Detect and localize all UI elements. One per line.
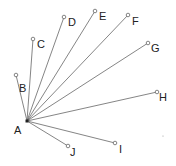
endpoint-f-marker	[126, 13, 130, 17]
label-b: B	[19, 82, 26, 94]
edge-b: B	[14, 73, 27, 121]
diagram-svg: BCDEFGHIJA	[0, 0, 176, 166]
line-a-j	[27, 121, 68, 146]
endpoint-i-marker	[113, 141, 117, 145]
edge-g: G	[27, 41, 160, 121]
edge-e: E	[27, 9, 106, 121]
endpoint-d-marker	[62, 15, 66, 19]
label-e: E	[99, 10, 106, 22]
endpoint-g-marker	[146, 41, 150, 45]
endpoint-e-marker	[93, 9, 97, 13]
label-a: A	[14, 124, 22, 136]
line-a-i	[27, 121, 115, 143]
edge-f: F	[27, 13, 139, 121]
radial-diagram: BCDEFGHIJA	[0, 0, 176, 166]
label-i: I	[119, 143, 122, 155]
label-f: F	[132, 15, 139, 27]
line-a-e	[27, 11, 95, 121]
edge-h: H	[27, 90, 167, 121]
edge-j: J	[27, 121, 76, 158]
endpoint-c-marker	[31, 37, 35, 41]
line-a-h	[27, 92, 157, 121]
line-a-g	[27, 43, 148, 121]
stray-dot	[162, 135, 163, 136]
label-d: D	[68, 16, 76, 28]
line-a-c	[27, 39, 33, 121]
line-a-f	[27, 15, 128, 121]
label-g: G	[151, 42, 160, 54]
center-node-a	[26, 120, 29, 123]
label-j: J	[70, 146, 76, 158]
line-a-d	[27, 17, 64, 121]
endpoint-b-marker	[14, 73, 18, 77]
label-h: H	[159, 91, 167, 103]
label-c: C	[37, 38, 45, 50]
